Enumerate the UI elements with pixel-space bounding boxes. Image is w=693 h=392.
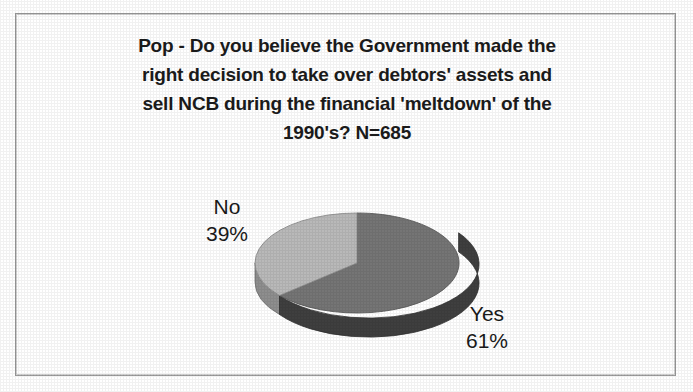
pie-label-no: No 39% (182, 193, 272, 247)
pie-label-yes: Yes 61% (442, 300, 532, 354)
chart-frame: Pop - Do you believe the Government made… (15, 13, 676, 376)
chart-page: Pop - Do you believe the Government made… (0, 0, 693, 392)
pie-plot-area: No 39% Yes 61% (17, 15, 678, 378)
